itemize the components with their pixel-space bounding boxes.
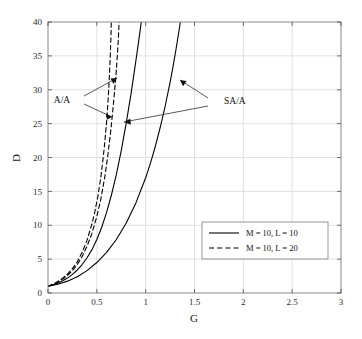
x-tick-label: 1 — [143, 297, 148, 307]
x-axis-tick-labels: 00.511.522.53 — [46, 297, 344, 307]
x-tick-label: 0 — [46, 297, 51, 307]
y-tick-label: 35 — [33, 51, 43, 61]
x-tick-label: 0.5 — [91, 297, 103, 307]
x-tick-label: 2.5 — [287, 297, 299, 307]
x-tick-label: 3 — [339, 297, 344, 307]
y-tick-label: 30 — [33, 85, 43, 95]
y-tick-label: 40 — [33, 17, 43, 27]
legend-label-solid: M = 10, L = 10 — [246, 228, 298, 238]
y-tick-label: 20 — [33, 153, 43, 163]
annotation-label-aa: A/A — [54, 95, 71, 105]
annotation-label-saa: SA/A — [224, 96, 246, 106]
y-tick-label: 25 — [33, 119, 43, 129]
y-tick-label: 15 — [33, 187, 43, 197]
x-axis-title: G — [190, 312, 198, 324]
y-tick-label: 5 — [38, 254, 43, 264]
y-axis-tick-labels: 0510152025303540 — [33, 17, 43, 298]
y-tick-label: 0 — [38, 288, 43, 298]
x-tick-label: 1.5 — [189, 297, 201, 307]
chart-figure: A/A SA/A 00.511.522.53 0510152025303540 … — [0, 0, 362, 339]
legend-label-dashed: M = 10, L = 20 — [246, 243, 298, 253]
y-axis-title: D — [10, 154, 22, 162]
y-tick-label: 10 — [33, 220, 43, 230]
legend: M = 10, L = 10 M = 10, L = 20 — [202, 222, 328, 259]
x-tick-label: 2 — [241, 297, 246, 307]
chart-canvas: A/A SA/A 00.511.522.53 0510152025303540 … — [0, 0, 362, 339]
